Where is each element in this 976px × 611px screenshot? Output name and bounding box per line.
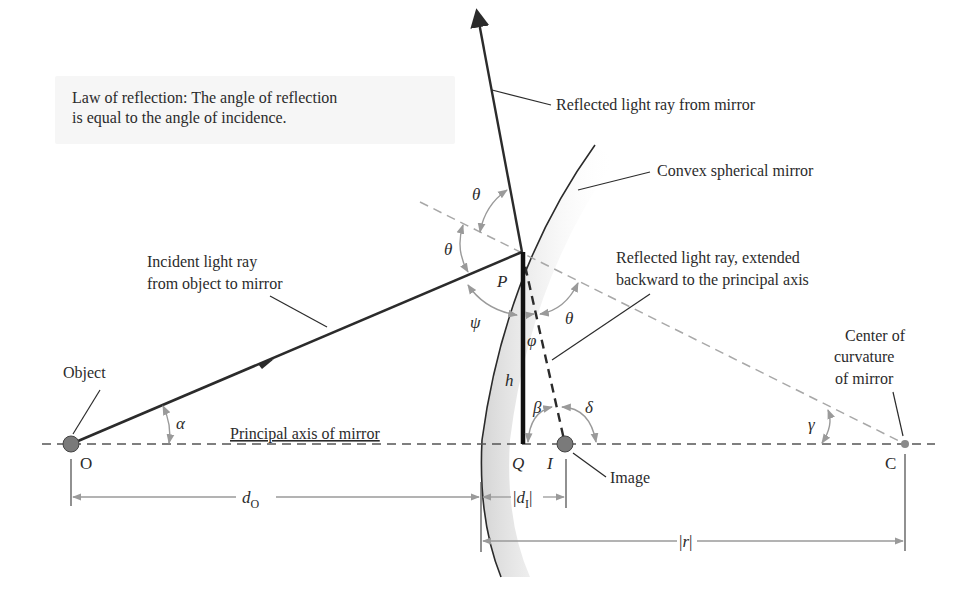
reflected-ray [477,12,522,252]
center-point [901,440,909,448]
object-point [63,436,79,452]
angle-delta: δ [585,398,594,417]
label-reflected-ray: Reflected light ray from mirror [556,96,756,114]
do-sub: O [251,497,260,511]
point-q-label: Q [512,454,524,473]
label-image: Image [610,469,650,487]
angle-beta: β [532,398,542,417]
distance-di-label: |dI| [513,488,532,511]
theta-top-arc [480,190,507,232]
image-point [557,436,573,452]
psi-arc [468,285,517,315]
phi-arc [527,314,534,315]
label-convex-mirror: Convex spherical mirror [657,162,814,180]
leader-center [893,392,903,436]
mirror-diagram: Law of reflection: The angle of reflecti… [0,0,976,611]
angle-gamma: γ [808,415,816,434]
label-extended-line1: Reflected light ray, extended [616,249,800,267]
incident-ray [71,252,522,444]
leader-object [73,390,100,434]
alpha-arc [163,406,170,443]
distance-do-label: dO [242,488,260,511]
angle-phi: φ [527,331,536,350]
leader-reflected-ray [492,90,551,105]
label-extended-line2: backward to the principal axis [616,271,809,289]
point-o-label: O [80,454,92,473]
label-center-line1: Center of [845,327,906,344]
label-principal-axis: Principal axis of mirror [230,425,380,443]
label-incident-line1: Incident light ray [147,253,257,271]
angle-alpha: α [176,414,186,433]
distance-r-label: |r| [679,532,692,551]
point-i-label: I [546,454,554,473]
point-c-label: C [885,454,896,473]
label-center-line2: curvature [834,348,894,365]
diagram-canvas: Reflected light ray from mirror Convex s… [0,0,976,611]
leader-image [573,453,606,477]
height-h-label: h [505,371,514,390]
theta-mid-arc [460,225,468,272]
point-p-label: P [496,272,507,291]
angle-psi: ψ [470,313,481,332]
label-center-line3: of mirror [835,370,894,387]
leader-incident-ray [270,296,327,327]
label-incident-line2: from object to mirror [147,275,283,293]
angle-theta-mid: θ [444,240,452,259]
label-object: Object [63,364,106,382]
angle-theta-right: θ [565,309,573,328]
gamma-arc [822,410,830,443]
angle-theta-top: θ [472,185,480,204]
mirror-shading [481,145,615,577]
